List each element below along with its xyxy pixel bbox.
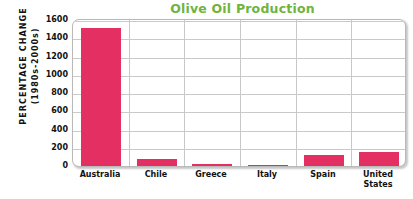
bar-united-states — [359, 152, 399, 167]
y-tick-label: 0 — [28, 162, 68, 170]
x-tick-label: Australia — [72, 170, 128, 180]
y-axis-tick-labels: 02004006008001000120014001600 — [28, 14, 68, 166]
chart-title: Olive Oil Production — [72, 1, 413, 16]
y-tick-label: 1400 — [28, 34, 68, 42]
y-tick-label: 800 — [28, 89, 68, 97]
x-tick-label-line: States — [350, 180, 406, 190]
gridline-vertical — [129, 20, 130, 166]
x-tick-label: Greece — [183, 170, 239, 180]
gridline-horizontal — [73, 112, 405, 113]
y-tick-label: 1600 — [28, 16, 68, 24]
bar-italy — [248, 165, 288, 167]
y-tick-label: 1000 — [28, 71, 68, 79]
gridline-vertical — [184, 20, 185, 166]
x-tick-label-line: Spain — [295, 170, 351, 180]
x-tick-label-line: United — [350, 170, 406, 180]
y-tick-label: 1200 — [28, 53, 68, 61]
y-tick-label: 200 — [28, 144, 68, 152]
gridline-vertical — [351, 20, 352, 166]
plot-inner — [73, 20, 405, 166]
x-tick-label-line: Chile — [128, 170, 184, 180]
bar-spain — [304, 155, 344, 167]
gridline-horizontal — [73, 39, 405, 40]
y-tick-label: 600 — [28, 107, 68, 115]
gridline-horizontal — [73, 76, 405, 77]
x-tick-label: Italy — [239, 170, 295, 180]
x-tick-label-line: Italy — [239, 170, 295, 180]
y-tick-label: 400 — [28, 126, 68, 134]
bar-chile — [137, 159, 177, 167]
gridline-vertical — [296, 20, 297, 166]
x-axis-tick-labels: AustraliaChileGreeceItalySpainUnitedStat… — [72, 170, 406, 198]
x-tick-label-line: Australia — [72, 170, 128, 180]
gridline-vertical — [240, 20, 241, 166]
bar-greece — [192, 164, 232, 167]
x-tick-label-line: Greece — [183, 170, 239, 180]
x-tick-label: UnitedStates — [350, 170, 406, 189]
plot-area — [72, 19, 406, 167]
gridline-horizontal — [73, 94, 405, 95]
olive-oil-production-chart: Olive Oil Production PERCENTAGE CHANGE (… — [0, 0, 413, 199]
gridline-horizontal — [73, 58, 405, 59]
x-tick-label: Chile — [128, 170, 184, 180]
gridline-horizontal — [73, 149, 405, 150]
gridline-horizontal — [73, 21, 405, 22]
bar-australia — [81, 28, 121, 167]
gridline-horizontal — [73, 131, 405, 132]
x-tick-label: Spain — [295, 170, 351, 180]
